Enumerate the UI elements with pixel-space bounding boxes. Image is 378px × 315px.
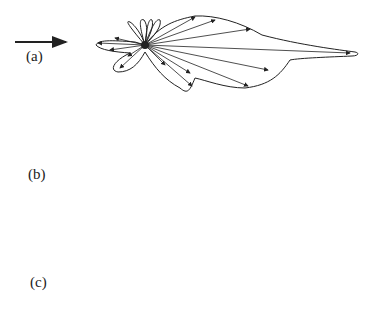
panel-label-a: (a) (26, 48, 43, 65)
panel-label-b: (b) (28, 166, 46, 183)
panel-a (15, 16, 358, 91)
panel-label-c: (c) (30, 274, 47, 291)
scattering-diagram (0, 0, 378, 315)
